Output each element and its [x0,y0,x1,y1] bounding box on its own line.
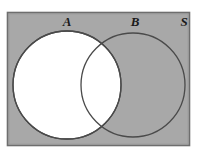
universal-set-label: S [180,14,187,29]
set-a-label: A [62,14,72,29]
venn-diagram-canvas: A B S [0,0,206,161]
set-b-label: B [130,14,140,29]
venn-diagram-figure: A B S [0,0,206,161]
